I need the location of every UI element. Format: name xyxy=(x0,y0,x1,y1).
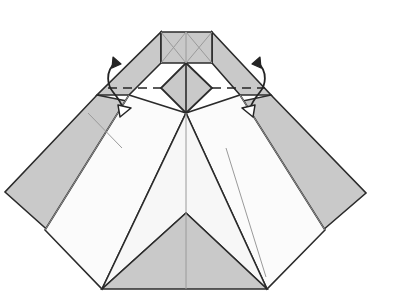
origami-diagram-root xyxy=(0,0,399,303)
origami-diagram-svg xyxy=(0,0,399,303)
